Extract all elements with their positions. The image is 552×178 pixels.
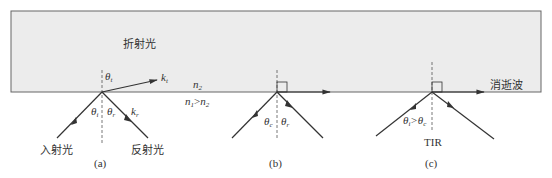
incident-arrow-a (71, 117, 77, 125)
reflected-arrow-c (447, 101, 454, 108)
n1-gt-n2-label: n1>n2 (185, 95, 210, 109)
caption-c: (c) (425, 157, 438, 170)
incident-arrow-b (252, 110, 258, 118)
incident-light-label: 入射光 (40, 143, 73, 157)
tir-condition-label: θi>θc (403, 114, 427, 128)
tir-label: TIR (424, 136, 442, 148)
theta-c-label-b: θc (264, 115, 273, 129)
refracted-light-label: 折射光 (123, 37, 156, 51)
theta-i-label: θi (91, 105, 98, 119)
theta-r-label-b: θr (281, 115, 289, 129)
caption-b: (b) (269, 157, 282, 170)
theta-r-label: θr (107, 105, 115, 119)
total-internal-reflection-diagram: 折射光 θt kt θi θr kr 入射光 反射光 (a) n2 n1>n2 … (0, 0, 552, 178)
medium-box (11, 11, 541, 92)
evanescent-wave-label: 消逝波 (490, 78, 523, 92)
reflected-ray-c (432, 92, 494, 139)
caption-a: (a) (94, 157, 107, 170)
k-r-label: kr (131, 105, 139, 119)
reflected-light-label: 反射光 (131, 143, 164, 157)
